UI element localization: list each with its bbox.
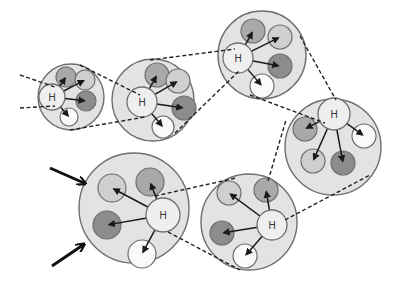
- cluster-6: H: [79, 153, 189, 268]
- node-dark: [93, 211, 121, 239]
- node-dark: [172, 96, 196, 120]
- cluster-5: H: [201, 174, 297, 270]
- node-medium: [145, 63, 169, 87]
- node-light: [268, 25, 292, 49]
- node-light: [217, 181, 241, 205]
- node-medium: [241, 19, 265, 43]
- node-white: [250, 74, 274, 98]
- hub-label: H: [234, 53, 241, 64]
- node-dark: [268, 54, 292, 78]
- hub-label: H: [330, 109, 337, 120]
- cluster-1: H: [38, 64, 104, 130]
- hub-label: H: [48, 92, 55, 103]
- node-dark: [76, 91, 96, 111]
- node-dark: [331, 151, 355, 175]
- node-medium: [293, 117, 317, 141]
- node-white: [152, 116, 174, 138]
- node-medium: [136, 168, 164, 196]
- node-white: [233, 244, 257, 268]
- input-arrow-icon: [52, 245, 83, 266]
- node-light: [301, 149, 325, 173]
- node-dark: [210, 221, 234, 245]
- node-white: [352, 124, 376, 148]
- dashed-connector: [268, 120, 286, 181]
- hub-label: H: [138, 97, 145, 108]
- node-light: [75, 70, 95, 90]
- cluster-2: H: [112, 59, 196, 141]
- node-medium: [254, 178, 278, 202]
- node-light: [166, 69, 190, 93]
- node-white: [128, 240, 156, 268]
- hub-label: H: [268, 220, 275, 231]
- cluster-4: H: [285, 98, 381, 195]
- input-arrow-icon: [50, 168, 84, 183]
- node-medium: [56, 67, 76, 87]
- hub-label: H: [159, 210, 166, 221]
- cluster-3: H: [218, 11, 306, 99]
- network-diagram: HHHHHH: [0, 0, 404, 284]
- node-light: [98, 174, 126, 202]
- cluster-groups: HHHHHH: [38, 11, 381, 270]
- input-arrows: [50, 168, 84, 266]
